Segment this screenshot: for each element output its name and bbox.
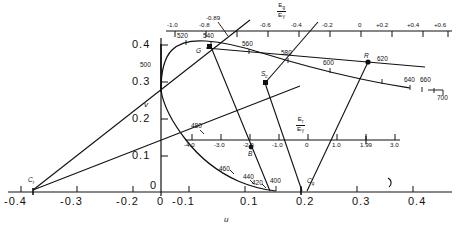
u-tick-0.2: 0.2	[296, 196, 314, 207]
u-axis-label: u	[224, 216, 228, 224]
v-tick-0.3: 0.3	[132, 76, 150, 87]
v-tick-0.1: 0.1	[132, 150, 150, 161]
point-label-g: G	[196, 48, 201, 57]
wavelength-600: 600	[323, 60, 334, 67]
u-axis-ticks	[21, 186, 413, 192]
top-tick-+0.6: +0.6	[434, 22, 446, 28]
wavelength-620: 620	[377, 56, 388, 63]
line-g-r	[206, 48, 425, 67]
v-tick-0.4: 0.4	[132, 39, 150, 50]
u-tick-0.3: 0.3	[352, 196, 370, 207]
wavelength-660: 660	[420, 77, 431, 84]
mid-tick-3.0: 3.0	[390, 142, 399, 148]
annotation-1.99: 1.99	[360, 142, 372, 148]
top-axis-ticks	[175, 31, 448, 37]
top-tick-+0.2: +0.2	[376, 22, 388, 28]
u-tick--0.1: -0.1	[172, 196, 195, 207]
mid-axis-ticks	[192, 134, 395, 140]
line-r-cq	[307, 62, 368, 191]
mid-axis-denominator: EY	[296, 126, 305, 135]
u-tick--0.3: -0.3	[60, 196, 83, 207]
point-label-sc: Sc	[261, 71, 268, 80]
top-tick--0.2: -0.2	[322, 22, 333, 28]
wavelength-700: 700	[437, 95, 448, 102]
mid-tick--2.0: -2.0	[243, 142, 254, 148]
u-tick--0.2: -0.2	[116, 196, 139, 207]
chromaticity-diagram: -0.4 -0.3 -0.2 -0.1 0 0.1 0.2 0.3 0.4 0.…	[0, 0, 459, 240]
point-label-cq: Cq	[307, 178, 314, 187]
top-tick--0.6: -0.6	[260, 22, 271, 28]
top-tick--1.0: -1.0	[167, 22, 178, 28]
point-sc[interactable]	[263, 80, 268, 85]
mid-tick-0: 0	[305, 142, 308, 148]
line-cr-sc	[33, 86, 300, 190]
wavelength-420: 420	[252, 180, 263, 187]
point-label-r: R	[364, 53, 369, 62]
wavelength-400: 400	[270, 178, 281, 185]
top-tick-0: 0	[358, 22, 361, 28]
mid-tick--4.0: -4.0	[184, 142, 195, 148]
v-axis-label: v	[144, 101, 148, 109]
u-tick-0: 0	[157, 196, 164, 207]
u-tick-0.4: 0.4	[408, 196, 426, 207]
u-tick--0.4: -0.4	[4, 196, 27, 207]
wavelength-540: 540	[203, 33, 214, 40]
mid-tick--3.0: -3.0	[214, 142, 225, 148]
top-tick-+0.4: +0.4	[407, 22, 419, 28]
u-tick-0.1: 0.1	[240, 196, 258, 207]
wavelength-520: 520	[177, 33, 188, 40]
hook-glyph	[388, 178, 391, 187]
top-tick--0.8: -0.8	[199, 22, 210, 28]
annotation-089-leader	[218, 22, 228, 36]
line-sc-cq	[265, 83, 302, 191]
wavelength-460: 460	[219, 166, 230, 173]
wavelength-580: 580	[281, 50, 292, 57]
point-label-cr: Cr	[28, 177, 34, 186]
wavelength-640: 640	[404, 77, 415, 84]
top-tick--0.4: -0.4	[291, 22, 302, 28]
wavelength-560: 560	[242, 41, 253, 48]
v-tick-0.2: 0.2	[132, 113, 150, 124]
wavelength-480: 480	[191, 123, 202, 130]
point-label-b: B	[248, 151, 252, 160]
annotation--0.89: -0.89	[206, 15, 220, 21]
v-tick-0: 0	[150, 180, 157, 191]
mid-axis-fraction-label: Er EY	[296, 116, 305, 135]
top-axis-fraction-label: Eg EY	[277, 2, 286, 21]
mid-tick--1.0: -1.0	[272, 142, 283, 148]
mid-tick-1.0: 1.0	[332, 142, 341, 148]
top-axis-denominator: EY	[277, 12, 286, 21]
wavelength-500: 500	[140, 62, 151, 69]
